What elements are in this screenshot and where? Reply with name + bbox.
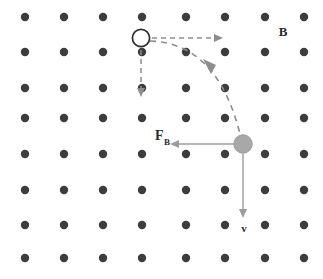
field-dot [300,84,308,92]
field-dot [60,13,68,21]
field-dot [221,48,229,56]
field-dot [60,254,68,262]
field-dot [21,254,29,262]
field-dot [99,84,107,92]
field-dot [60,221,68,229]
field-dot [261,150,269,158]
field-dot [99,150,107,158]
field-dot [261,84,269,92]
magnetic-force-label-subscript: B [164,137,170,147]
magnetic-field-label: B [279,24,288,39]
field-dot [182,150,190,158]
field-dot [300,13,308,21]
velocity-label: v [241,222,247,234]
field-dot [99,186,107,194]
field-dot [300,254,308,262]
field-dot [261,186,269,194]
field-dot [221,186,229,194]
field-dot [60,114,68,122]
start-particle-circle [132,29,149,46]
field-dot [182,221,190,229]
field-dot [21,221,29,229]
field-dot [99,114,107,122]
field-dot [221,150,229,158]
field-dot [182,254,190,262]
field-dot [60,84,68,92]
field-dot [261,114,269,122]
magnetic-force-label: F [155,128,164,143]
field-dot [21,84,29,92]
field-dot [300,48,308,56]
end-particle-circle [234,135,252,153]
field-dot [261,254,269,262]
physics-figure: B F B v [0,0,323,279]
field-dot [221,13,229,21]
field-dot [60,150,68,158]
figure-canvas: B F B v [0,0,323,279]
field-dot [182,114,190,122]
field-dot [261,13,269,21]
field-dot [138,221,146,229]
field-dot [221,254,229,262]
field-dot [182,84,190,92]
field-dot [21,186,29,194]
field-dot [221,114,229,122]
field-dot [261,48,269,56]
field-dot [21,48,29,56]
field-dot [138,114,146,122]
field-dot [21,13,29,21]
field-dot [261,221,269,229]
field-dot [138,13,146,21]
field-dot [99,13,107,21]
field-dot [138,48,146,56]
field-dot [300,186,308,194]
field-dot [99,48,107,56]
field-dot [300,150,308,158]
field-dot [99,254,107,262]
field-dot [300,221,308,229]
field-dot [221,221,229,229]
field-dot [138,150,146,158]
field-dot [300,114,308,122]
field-dot [99,221,107,229]
field-dot [21,150,29,158]
field-dot [60,48,68,56]
field-dot [60,186,68,194]
field-dot [138,186,146,194]
field-dot [21,114,29,122]
field-dot [182,186,190,194]
field-dot [182,13,190,21]
field-dot [138,254,146,262]
